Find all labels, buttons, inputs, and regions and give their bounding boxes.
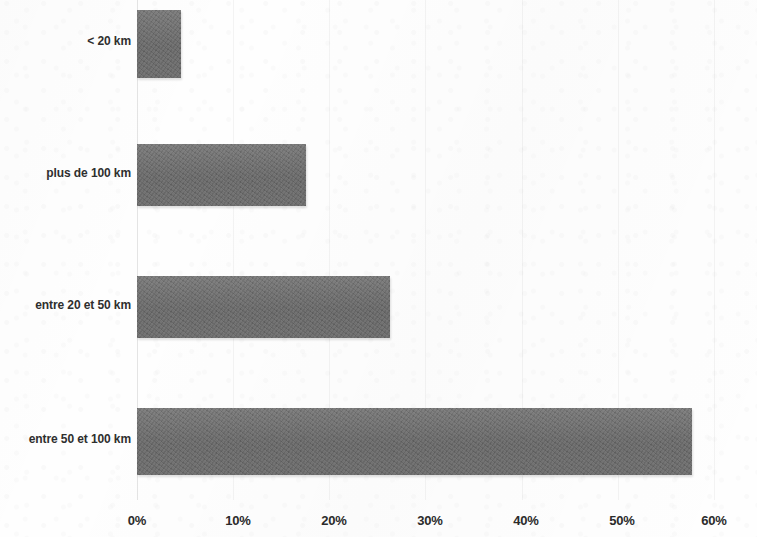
x-tick-label: 0%	[128, 513, 146, 528]
x-tick-label: 40%	[513, 513, 538, 528]
category-label: entre 50 et 100 km	[29, 432, 131, 446]
bar-segment[interactable]	[137, 276, 390, 338]
bar-row: < 20 km	[0, 10, 757, 78]
x-tick-label: 30%	[417, 513, 442, 528]
category-label: plus de 100 km	[46, 166, 131, 180]
bar-row: entre 50 et 100 km	[0, 408, 757, 475]
x-tick-label: 50%	[609, 513, 634, 528]
chart-page: < 20 km plus de 100 km entre 20 et 50 km…	[0, 0, 757, 537]
bar-chart: < 20 km plus de 100 km entre 20 et 50 km…	[0, 0, 757, 537]
category-label: < 20 km	[87, 34, 131, 48]
category-label: entre 20 et 50 km	[35, 298, 131, 312]
bar-row: entre 20 et 50 km	[0, 276, 757, 338]
x-tick-label: 20%	[321, 513, 346, 528]
bar-row: plus de 100 km	[0, 144, 757, 206]
x-tick-label: 60%	[701, 513, 726, 528]
x-tick-label: 10%	[225, 513, 250, 528]
bar-segment[interactable]	[137, 144, 306, 206]
bar-segment[interactable]	[137, 10, 181, 78]
bar-segment[interactable]	[137, 408, 692, 475]
